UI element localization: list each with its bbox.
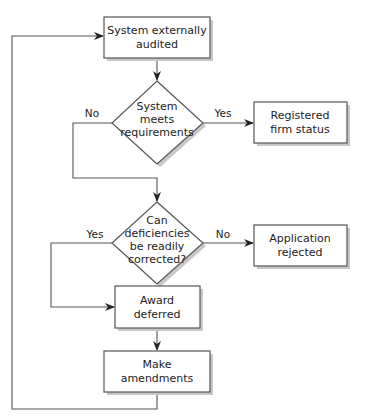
node-registered-firm-status: Registered firm status [254, 102, 350, 146]
node-award-deferred: Award deferred [115, 286, 203, 331]
node-system-meets-requirements: System meets requirements [112, 81, 206, 167]
edge-label-correct-no: No [216, 228, 230, 240]
node-meets-line3: requirements [120, 126, 194, 139]
node-system-externally-audited: System externally audited [104, 17, 213, 61]
node-meets-line2: meets [140, 113, 175, 126]
node-correct-line2: deficiencies [124, 227, 189, 240]
node-deferred-line2: deferred [134, 308, 181, 321]
flowchart-diagram: No Yes Yes No System externally audited … [0, 0, 367, 419]
node-audit-line1: System externally [107, 24, 207, 37]
node-meets-line1: System [136, 100, 177, 113]
node-can-deficiencies-be-corrected: Can deficiencies be readily corrected? [112, 202, 206, 287]
edge-label-meets-yes: Yes [214, 107, 232, 119]
node-correct-line1: Can [146, 214, 167, 227]
node-amend-line1: Make [143, 358, 172, 371]
node-rejected-line2: rejected [278, 246, 323, 259]
node-correct-line4: corrected? [128, 253, 186, 266]
edge-label-correct-yes: Yes [86, 228, 104, 240]
edge-label-meets-no: No [85, 107, 99, 119]
node-make-amendments: Make amendments [104, 351, 213, 395]
node-rejected-line1: Application [269, 232, 330, 245]
node-registered-line2: firm status [270, 123, 330, 136]
node-audit-line2: audited [136, 38, 178, 51]
node-amend-line2: amendments [121, 372, 194, 385]
node-application-rejected: Application rejected [254, 225, 350, 269]
node-registered-line1: Registered [271, 109, 330, 122]
node-deferred-line1: Award [140, 294, 174, 307]
edge-correct-yes [51, 243, 114, 307]
node-correct-line3: be readily [130, 240, 185, 253]
